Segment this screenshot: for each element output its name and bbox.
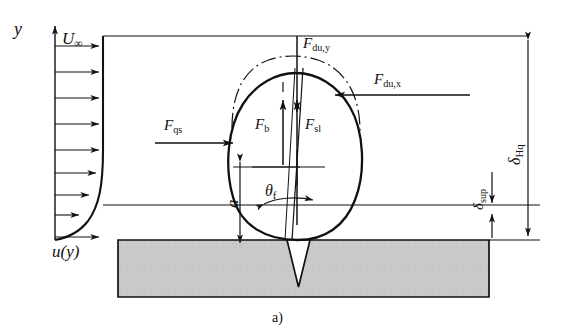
force-subscript-F-qs: qs (173, 124, 182, 135)
force-base-F-du-y: F (303, 35, 312, 51)
force-subscript-F-b: b (264, 123, 269, 134)
angle-label-theta-f: θf (265, 183, 276, 201)
dimension-subscript-delta-Hq: Hq (513, 144, 525, 157)
freestream-base: U (62, 29, 74, 48)
force-label-F-sl: Fsl (305, 117, 321, 134)
force-label-F-b: Fb (255, 117, 269, 134)
angle-subscript-theta-f: f (273, 189, 277, 201)
freestream-velocity-label: U∞ (62, 30, 83, 50)
force-subscript-F-du-y: du,y (312, 42, 330, 53)
dimension-label-a: a (224, 200, 241, 209)
force-base-F-b: F (255, 116, 264, 132)
dimension-base-delta-sup: δ (470, 203, 486, 210)
force-base-F-qs: F (164, 117, 173, 133)
vapour-bubble (228, 56, 362, 240)
velocity-profile-label: u(y) (52, 243, 79, 260)
force-label-F-du-x: Fdu,x (374, 72, 401, 89)
force-base-F-sl: F (305, 116, 314, 132)
substrate-wall (118, 240, 489, 297)
bubble-outline (228, 73, 362, 240)
dimension-subscript-delta-sup: sup (477, 189, 488, 203)
dimension-base-delta-Hq: δ (506, 158, 523, 165)
force-subscript-F-sl: sl (314, 123, 321, 134)
force-label-F-qs: Fqs (164, 118, 182, 135)
force-label-F-du-y: Fdu,y (303, 36, 330, 53)
dimension-label-delta-Hq: δHq (507, 144, 525, 165)
y-axis-label: y (14, 20, 22, 38)
freestream-subscript: ∞ (74, 37, 82, 50)
velocity-profile (55, 26, 103, 240)
force-subscript-F-du-x: du,x (383, 78, 401, 89)
bubble-force-diagram (0, 0, 565, 333)
velocity-profile-curve (55, 36, 103, 240)
dimension-label-delta-sup: δsup (471, 189, 488, 210)
force-base-F-du-x: F (374, 71, 383, 87)
bubble-centre-axes (252, 68, 325, 240)
figure-caption: a) (272, 310, 283, 326)
angle-base-theta-f: θ (265, 182, 273, 199)
